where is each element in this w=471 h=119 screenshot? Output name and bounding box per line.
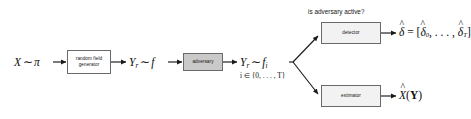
index-range-note: i ∈ {0, . . . , T} <box>240 71 285 80</box>
delta-hat-first: δ <box>420 26 425 38</box>
random-field-generator-block[interactable]: random field generator <box>67 50 111 74</box>
field-output-label: Yr∼f <box>129 55 154 70</box>
adversary-block[interactable]: adversary <box>183 53 223 71</box>
estimator-block[interactable]: estimator <box>321 85 381 107</box>
detector-output-ellipsis: , . . . , <box>429 26 458 38</box>
estimator-output-label: X(Y) <box>399 89 422 101</box>
adversary-label: adversary <box>192 59 213 65</box>
detector-output-equals: = [ <box>404 26 420 38</box>
detector-label: detector <box>342 30 359 36</box>
adversary-output-label: Yr∼fi <box>240 55 267 70</box>
adversary-output-distribution-subscript: i <box>265 62 267 70</box>
estimator-label: estimator <box>341 93 361 99</box>
source-distribution-label: X∼π <box>14 55 40 69</box>
detector-block[interactable]: detector <box>321 22 381 44</box>
arrow-branch-to-estimator <box>293 62 318 94</box>
delta-hat-symbol: δ <box>399 26 404 38</box>
detector-output-label: δ = [δ0, . . . , δT] <box>399 26 471 38</box>
source-variable: X <box>14 56 21 68</box>
delta-hat-last: δ <box>458 26 463 38</box>
estimator-output-argument: Y <box>410 89 418 101</box>
x-hat-symbol: X <box>399 89 406 101</box>
detector-output-bracket-close: ] <box>467 26 471 38</box>
estimator-output-paren-close: ) <box>418 89 422 101</box>
field-output-distribution: f <box>151 56 154 68</box>
adversary-output-relation: ∼ <box>249 56 262 68</box>
arrow-branch-to-detector <box>293 36 318 62</box>
source-distribution: π <box>34 56 40 68</box>
source-relation: ∼ <box>21 56 34 68</box>
field-output-relation: ∼ <box>138 56 151 68</box>
detector-question-caption: is adversary active? <box>308 8 364 15</box>
random-field-generator-label-line2: generator <box>79 62 100 68</box>
